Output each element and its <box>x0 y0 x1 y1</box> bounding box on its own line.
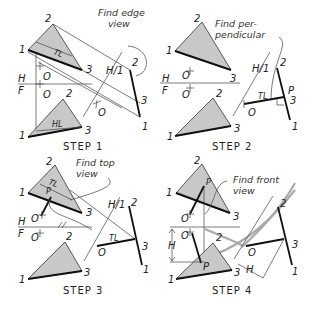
label-3: 3 <box>86 64 92 75</box>
note-line-1: Find edge <box>98 7 145 18</box>
label-3: 3 <box>86 207 92 218</box>
note-line-2: view <box>76 168 98 179</box>
front-view-plane <box>28 242 82 279</box>
label-p: P <box>46 187 51 196</box>
label-h: H <box>18 216 26 227</box>
label-f: F <box>162 85 168 96</box>
label-o: O <box>182 70 190 81</box>
label-h-fold: H/1 <box>252 63 269 74</box>
step-caption: STEP 2 <box>212 141 252 152</box>
label-hl: HL <box>52 120 62 129</box>
label-1: 1 <box>19 274 25 285</box>
step-caption: STEP 1 <box>63 141 103 152</box>
label-1: 1 <box>166 187 172 198</box>
label-3: 3 <box>141 95 147 106</box>
label-o: O <box>182 89 190 100</box>
note-line-2: view <box>108 18 130 29</box>
label-3: 3 <box>233 211 239 222</box>
label-2: 2 <box>66 231 72 242</box>
label-tl: TL <box>258 92 267 101</box>
label-1: 1 <box>168 274 174 285</box>
note-line-2: pendicular <box>214 29 266 40</box>
label-2: 2 <box>280 198 286 209</box>
panel-step-3: 2 1 3 TL P O H F O 2 1 3 H/1 2 3 1 O TL … <box>18 156 149 296</box>
dimension-h: H <box>246 264 254 275</box>
label-1: 1 <box>292 121 298 132</box>
label-1: 1 <box>143 264 149 275</box>
label-2: 2 <box>45 13 51 24</box>
dimension-h: H <box>168 240 176 251</box>
label-h: H <box>162 73 170 84</box>
panel-step-1: 2 1 3 TL O H F O 2 1 3 HL H/1 2 3 1 O Fi… <box>18 7 148 152</box>
descriptive-geometry-figure: 2 1 3 TL O H F O 2 1 3 HL H/1 2 3 1 O Fi… <box>0 0 314 311</box>
step-caption: STEP 4 <box>212 285 252 296</box>
label-1: 1 <box>166 45 172 56</box>
label-2: 2 <box>132 57 138 68</box>
label-3: 3 <box>84 267 90 278</box>
label-3: 3 <box>234 267 240 278</box>
edge-view-line <box>130 70 140 117</box>
label-p: P <box>206 178 211 187</box>
label-1: 1 <box>292 266 298 277</box>
label-2: 2 <box>131 197 137 208</box>
label-3: 3 <box>142 241 148 252</box>
label-1: 1 <box>19 187 25 198</box>
label-3: 3 <box>292 239 298 250</box>
label-2: 2 <box>66 88 72 99</box>
top-view-plane <box>28 165 82 213</box>
label-o: O <box>43 89 51 100</box>
label-p: P <box>203 261 210 272</box>
note-line-2: view <box>233 185 255 196</box>
label-3: 3 <box>230 73 236 84</box>
label-3: 3 <box>85 125 91 136</box>
label-h-fold: H/1 <box>106 65 123 76</box>
label-1: 1 <box>19 44 25 55</box>
label-f: F <box>18 85 24 96</box>
label-3: 3 <box>290 95 296 106</box>
label-2: 2 <box>46 156 52 167</box>
label-2: 2 <box>216 88 222 99</box>
label-1: 1 <box>142 121 148 132</box>
label-o: O <box>98 107 106 118</box>
label-3: 3 <box>234 123 240 134</box>
label-2: 2 <box>216 232 222 243</box>
note-line-1: Find per- <box>215 18 257 29</box>
label-1: 1 <box>167 131 173 142</box>
label-2: 2 <box>194 13 200 24</box>
label-o: O <box>248 107 256 118</box>
label-2: 2 <box>194 155 200 166</box>
label-1: 1 <box>19 130 25 141</box>
label-o: O <box>181 230 189 241</box>
step-caption: STEP 3 <box>63 285 103 296</box>
panel-step-4: 2 1 3 P O O 2 1 3 P H H 2 3 1 O Find fro… <box>166 155 298 296</box>
panel-step-2: 2 1 3 O H F O 2 1 3 H/1 2 3 1 O TL P Fin… <box>160 13 298 152</box>
note-line-1: Find front <box>233 174 280 185</box>
label-f: F <box>18 228 24 239</box>
label-o: O <box>248 247 256 258</box>
label-o: O <box>181 213 189 224</box>
label-o: O <box>98 247 106 258</box>
label-o: O <box>31 232 39 243</box>
label-tl: TL <box>109 234 118 243</box>
label-p: P <box>288 85 295 96</box>
label-h: H <box>18 73 26 84</box>
label-2: 2 <box>280 57 286 68</box>
label-o: O <box>43 71 51 82</box>
label-h-fold: H/1 <box>108 199 125 210</box>
note-line-1: Find top <box>76 157 115 168</box>
label-o: O <box>31 213 39 224</box>
